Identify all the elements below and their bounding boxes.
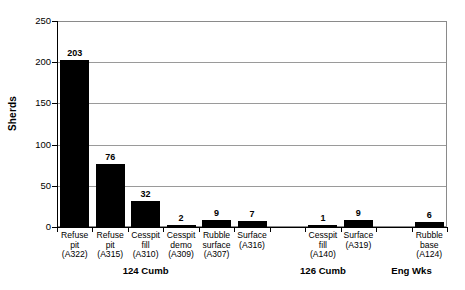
bar-value-label: 203 (55, 49, 95, 58)
grid-line (58, 145, 446, 146)
bar-value-label: 7 (232, 210, 272, 219)
x-category-label-line: (A140) (301, 250, 345, 260)
y-tick: 250 (5, 16, 51, 26)
bar-chart-figure: Sherds 050100150200250 2037632297196 Ref… (0, 0, 465, 290)
x-category-label-line: (A316) (230, 241, 274, 251)
bar-value-label: 9 (338, 209, 378, 218)
x-category-label-line: (A319) (336, 241, 380, 251)
y-tick-mark (52, 103, 57, 104)
bar (60, 60, 89, 227)
bar (415, 222, 444, 227)
grid-line (58, 103, 446, 104)
y-axis-title: Sherds (7, 84, 18, 144)
bar (167, 225, 196, 227)
y-tick-label: 0 (7, 222, 51, 232)
bar-value-label: 2 (161, 214, 201, 223)
y-tick-mark (52, 21, 57, 22)
x-category-label-line: (A124) (407, 250, 451, 260)
group-label: 124 Cumb (106, 266, 186, 276)
bar-value-label: 1 (303, 214, 343, 223)
y-tick-mark (52, 62, 57, 63)
group-label: 126 Cumb (283, 266, 363, 276)
y-tick: 100 (5, 140, 51, 150)
bar-value-label: 6 (409, 211, 449, 220)
y-tick-label: 150 (7, 98, 51, 108)
bar (238, 221, 267, 227)
bar (202, 220, 231, 227)
bar-value-label: 76 (90, 153, 130, 162)
grid-line (58, 62, 446, 63)
bar (344, 220, 373, 227)
x-category-label: Rubblebase(A124) (407, 231, 451, 260)
bar (131, 201, 160, 227)
y-tick: 50 (5, 181, 51, 191)
group-label: Eng Wks (372, 266, 452, 276)
y-tick-mark (52, 145, 57, 146)
y-tick-label: 100 (7, 140, 51, 150)
bar-value-label: 32 (126, 190, 166, 199)
y-tick: 200 (5, 57, 51, 67)
x-category-label: Surface(A319) (336, 231, 380, 250)
y-tick-mark (52, 186, 57, 187)
bar (308, 225, 337, 227)
bar-value-label: 9 (197, 209, 237, 218)
x-axis-line (57, 227, 448, 228)
y-tick-label: 200 (7, 57, 51, 67)
bar (96, 164, 125, 227)
y-tick-label: 250 (7, 16, 51, 26)
x-category-label: Surface(A316) (230, 231, 274, 250)
y-tick: 0 (5, 222, 51, 232)
x-category-label-line: (A307) (195, 250, 239, 260)
y-tick: 150 (5, 98, 51, 108)
y-tick-label: 50 (7, 181, 51, 191)
